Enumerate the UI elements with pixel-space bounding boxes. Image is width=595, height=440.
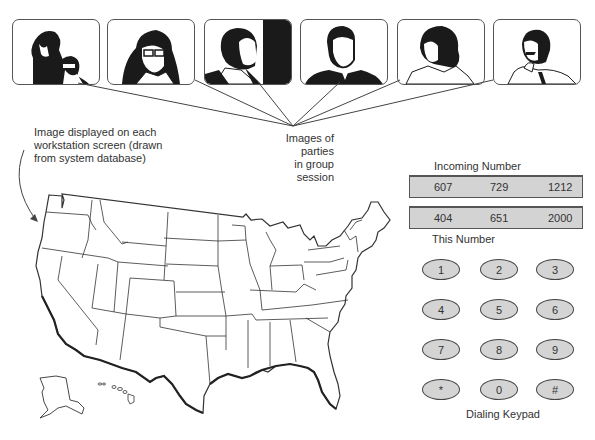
parties-caption-line-1: Images of parties xyxy=(254,132,334,158)
keypad-label: Dialing Keypad xyxy=(466,408,540,420)
key-5[interactable]: 5 xyxy=(480,299,518,320)
key-2[interactable]: 2 xyxy=(480,259,518,280)
key-hash[interactable]: # xyxy=(536,379,574,400)
key-star[interactable]: * xyxy=(422,379,460,400)
incoming-prefix: 729 xyxy=(490,181,508,193)
map-caption: Image displayed on each workstation scre… xyxy=(34,126,162,165)
key-7[interactable]: 7 xyxy=(422,339,460,360)
key-9[interactable]: 9 xyxy=(536,339,574,360)
this-line-number: 2000 xyxy=(548,212,572,224)
alaska-shape xyxy=(40,376,84,418)
us-map xyxy=(36,194,390,413)
parties-caption-line-2: in group session xyxy=(254,158,334,184)
map-caption-line-2: workstation screen (drawn xyxy=(34,139,162,152)
hawaii-islands xyxy=(98,383,134,404)
key-3[interactable]: 3 xyxy=(536,259,574,280)
key-6[interactable]: 6 xyxy=(536,299,574,320)
this-area-code: 404 xyxy=(434,212,452,224)
parties-caption: Images of parties in group session xyxy=(254,132,334,184)
connector-lines xyxy=(78,80,493,126)
key-4[interactable]: 4 xyxy=(422,299,460,320)
incoming-number-label: Incoming Number xyxy=(434,160,521,172)
incoming-area-code: 607 xyxy=(434,181,452,193)
incoming-number-display: 607 729 1212 xyxy=(409,175,583,198)
key-1[interactable]: 1 xyxy=(422,259,460,280)
map-caption-line-3: from system database) xyxy=(34,152,162,165)
key-0[interactable]: 0 xyxy=(480,379,518,400)
this-prefix: 651 xyxy=(490,212,508,224)
this-number-label: This Number xyxy=(432,233,495,245)
key-8[interactable]: 8 xyxy=(480,339,518,360)
map-caption-line-1: Image displayed on each xyxy=(34,126,162,139)
this-number-display: 404 651 2000 xyxy=(409,206,583,229)
incoming-line-number: 1212 xyxy=(548,181,572,193)
